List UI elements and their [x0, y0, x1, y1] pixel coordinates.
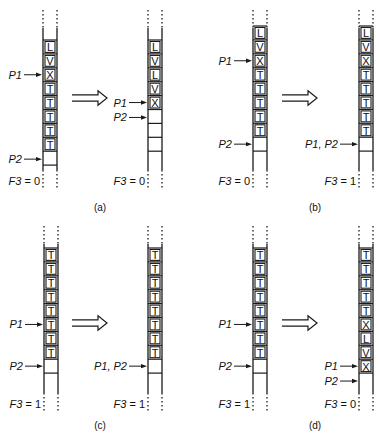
flag-f3-label: F3 = 0: [324, 398, 356, 410]
stack-cell-value: X: [46, 69, 54, 81]
stack-column-a-after: LVLVXP1P2F3 = 0: [113, 10, 162, 190]
stack-cell-value: T: [48, 319, 55, 331]
stack-cell-value: L: [363, 333, 369, 345]
flag-value: 1: [139, 398, 145, 410]
stack-cell-value: T: [363, 97, 370, 109]
pointer-label: P1: [114, 97, 127, 109]
stack-cell-value: T: [257, 111, 264, 123]
double-right-arrow-icon: [72, 91, 107, 105]
stack-cell-value: V: [151, 55, 159, 67]
stack-cell-value: T: [257, 277, 264, 289]
panel-caption: (a): [94, 202, 106, 213]
stack-cell-value: T: [47, 111, 54, 123]
stack-cell-value: T: [152, 263, 159, 275]
flag-equals: =: [337, 175, 350, 187]
stack-cell-value: T: [363, 125, 370, 137]
stack-cell-value: T: [152, 347, 159, 359]
stack-cell-value: T: [257, 263, 264, 275]
pointer-label: P1: [325, 360, 338, 372]
stack-cell-value: T: [257, 291, 264, 303]
stack-column-c-before: TTTTTTTTP1P2F3 = 1: [9, 226, 58, 413]
panel-caption: (d): [309, 420, 321, 431]
double-right-arrow-icon: [72, 316, 107, 330]
stack-cell-value: T: [152, 291, 159, 303]
panel-caption: (b): [309, 202, 321, 213]
stack-cell-value: T: [47, 97, 54, 109]
stack-cell-value: V: [46, 55, 54, 67]
flag-value: 1: [350, 175, 356, 187]
stack-column-d-before: TTTTTTTTP1P2F3 = 1: [218, 226, 267, 413]
pointer-arrowhead-icon: [37, 322, 43, 326]
stack-cell-value: T: [152, 305, 159, 317]
panel-a: (a): [72, 91, 107, 213]
stack-cell-value: T: [363, 305, 370, 317]
stack-cell-value: T: [363, 277, 370, 289]
flag-name: F3: [113, 175, 127, 187]
pointer-label: P1, P2: [305, 138, 338, 150]
stack-cell-value: T: [363, 69, 370, 81]
flag-equals: =: [21, 175, 34, 187]
stack-cell-value: T: [257, 333, 264, 345]
stack-cell-value: T: [363, 83, 370, 95]
pointer-arrowhead-icon: [352, 142, 358, 146]
stack-cell-value: T: [257, 347, 264, 359]
stack-cell-value: T: [363, 111, 370, 123]
stack-cell-value: T: [152, 319, 159, 331]
pointer-arrowhead-icon: [246, 59, 252, 63]
stack-cell-value: T: [257, 319, 264, 331]
flag-f3-label: F3 = 0: [218, 175, 250, 187]
pointer-arrowhead-icon: [37, 364, 43, 368]
pointer-label: P2: [219, 360, 232, 372]
stack-column-c-after: TTTTTTTTP1, P2F3 = 1: [94, 226, 162, 413]
flag-equals: =: [126, 398, 139, 410]
flag-f3-label: F3 = 1: [9, 398, 41, 410]
pointer-arrowhead-icon: [246, 322, 252, 326]
flag-name: F3: [218, 398, 232, 410]
stack-cell-value: T: [152, 333, 159, 345]
flag-equals: =: [22, 398, 35, 410]
flag-equals: =: [337, 398, 350, 410]
pointer-arrowhead-icon: [141, 100, 147, 104]
flag-f3-label: F3 = 1: [218, 398, 250, 410]
stack-cell-value: T: [48, 277, 55, 289]
stack-cell-value: V: [151, 83, 159, 95]
stack-cell-value: T: [363, 291, 370, 303]
stack-cell-value: T: [47, 83, 54, 95]
stack-column-d-after: TTTTTXLVXP1P2F3 = 0: [324, 226, 373, 413]
pointer-arrowhead-icon: [246, 364, 252, 368]
pointer-label: P1: [9, 69, 22, 81]
stack-cell-value: T: [48, 249, 55, 261]
stack-cell-value: X: [151, 97, 159, 109]
stack-column-a-before: LVXTTTTTP1P2F3 = 0: [8, 10, 57, 190]
pointer-label: P1: [219, 318, 232, 330]
stack-cell-value: L: [257, 27, 263, 39]
pointer-arrowhead-icon: [141, 115, 147, 119]
flag-value: 0: [139, 175, 145, 187]
stack-cell-value: T: [47, 139, 54, 151]
stack-cell-value: X: [362, 319, 370, 331]
flag-equals: =: [231, 175, 244, 187]
double-right-arrow-icon: [282, 316, 317, 330]
stack-cell-value: T: [363, 263, 370, 275]
stack-cell-value: T: [48, 347, 55, 359]
stack-cell-value: T: [48, 305, 55, 317]
panel-b: (b): [282, 91, 321, 213]
flag-value: 1: [244, 398, 250, 410]
stack-cell-value: T: [257, 69, 264, 81]
pointer-label: P2: [114, 111, 127, 123]
flag-value: 0: [34, 175, 40, 187]
pointer-arrowhead-icon: [36, 73, 42, 77]
stack-cell-value: T: [257, 83, 264, 95]
stack-cell-value: L: [152, 69, 158, 81]
pointer-label: P1: [10, 318, 23, 330]
flag-name: F3: [218, 175, 232, 187]
stack-cell-value: T: [48, 333, 55, 345]
flag-equals: =: [231, 398, 244, 410]
double-right-arrow-icon: [282, 91, 317, 105]
pointer-label: P1, P2: [94, 360, 127, 372]
flag-name: F3: [113, 398, 127, 410]
stack-cell-value: V: [362, 347, 370, 359]
flag-name: F3: [324, 175, 338, 187]
pointer-label: P1: [219, 55, 232, 67]
flag-equals: =: [126, 175, 139, 187]
